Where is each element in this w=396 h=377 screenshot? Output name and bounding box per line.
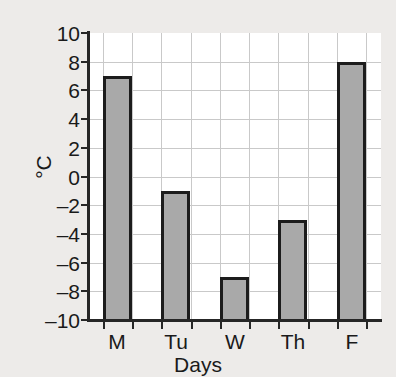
x-tick-label-f: F (346, 331, 359, 352)
x-tick-mark (337, 321, 339, 329)
gridline-vertical (366, 33, 367, 320)
x-tick-label-tu: Tu (164, 331, 188, 352)
gridline-vertical (308, 33, 309, 320)
x-tick-mark (161, 321, 163, 329)
gridline-vertical (249, 33, 250, 320)
x-tick-mark (191, 321, 193, 329)
bar-chart: °C 1086420–2–4–6–8–10 MTuWThF Days (0, 0, 396, 377)
y-axis-line (87, 31, 90, 322)
x-axis-title: Days (0, 354, 396, 375)
x-tick-label-w: W (225, 331, 245, 352)
x-tick-label-m: M (108, 331, 126, 352)
bar-f (337, 62, 366, 320)
gridline-vertical (132, 33, 133, 320)
bar-m (103, 76, 132, 320)
x-tick-mark (249, 321, 251, 329)
bar-tu (161, 191, 190, 320)
bar-th (278, 220, 307, 320)
x-tick-mark (132, 321, 134, 329)
x-tick-label-th: Th (281, 331, 306, 352)
x-tick-mark (103, 321, 105, 329)
gridline-vertical (191, 33, 192, 320)
bar-w (220, 277, 249, 320)
x-tick-mark (366, 321, 368, 329)
x-tick-mark (308, 321, 310, 329)
x-tick-mark (278, 321, 280, 329)
x-tick-mark (220, 321, 222, 329)
plot-area (88, 33, 381, 320)
x-axis-title-text: Days (174, 353, 222, 376)
